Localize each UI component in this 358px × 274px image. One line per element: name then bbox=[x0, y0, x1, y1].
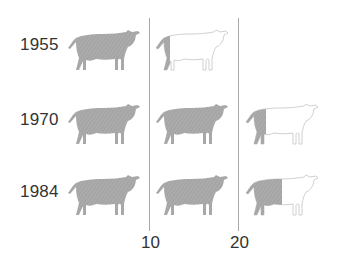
x-tick-10: 10 bbox=[141, 233, 160, 253]
cow-icon bbox=[150, 100, 234, 150]
cow-icon-partial bbox=[240, 100, 324, 150]
cow-icon bbox=[62, 171, 146, 221]
cow-icon bbox=[150, 171, 234, 221]
cow-icon bbox=[62, 100, 146, 150]
x-tick-20: 20 bbox=[230, 233, 249, 253]
cow-icon bbox=[62, 26, 146, 76]
row-label-1970: 1970 bbox=[20, 110, 59, 130]
cow-icon-partial bbox=[240, 171, 324, 221]
row-label-1955: 1955 bbox=[20, 35, 59, 55]
cow-icon-partial bbox=[150, 26, 234, 76]
row-label-1984: 1984 bbox=[20, 182, 59, 202]
gridline-20 bbox=[238, 18, 239, 231]
